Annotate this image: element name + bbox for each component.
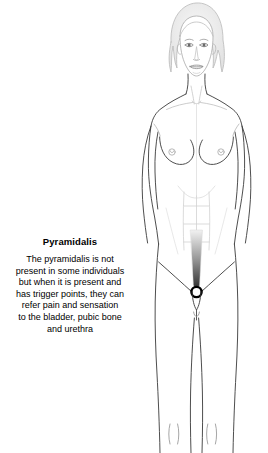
figure-svg xyxy=(130,0,268,453)
caption-title: Pyramidalis xyxy=(0,236,140,247)
oblique-left xyxy=(166,208,178,254)
thigh-inner-right xyxy=(199,318,203,453)
illustration-page: Pyramidalis The pyramidalis is not prese… xyxy=(0,0,268,453)
breast-right xyxy=(199,137,233,164)
clavicle-left xyxy=(167,103,193,110)
caption-line: The pyramidalis is not xyxy=(6,254,134,266)
inguinal-crease-left xyxy=(159,262,192,292)
arm-inner-left xyxy=(155,132,158,209)
rectus-abdominis-left-border xyxy=(183,192,184,250)
caption-line: and urethra xyxy=(6,324,134,336)
oblique-right xyxy=(215,208,227,254)
caption-body: The pyramidalis is not present in some i… xyxy=(0,254,140,335)
thigh-outer-left xyxy=(155,244,160,453)
inguinal-crease-right xyxy=(201,262,234,292)
caption-line: has trigger points, they can xyxy=(6,289,134,301)
caption-panel: Pyramidalis The pyramidalis is not prese… xyxy=(0,236,140,335)
neck xyxy=(186,74,207,94)
clavicle-right xyxy=(201,103,227,110)
caption-line: to the bladder, pubic bone xyxy=(6,312,134,324)
torso-outline-left xyxy=(148,94,186,244)
caption-line: present in some individuals xyxy=(6,266,134,278)
torso-outline-right xyxy=(207,94,245,244)
knee-right xyxy=(215,424,216,444)
nipple-left xyxy=(169,149,175,155)
caption-line: refer pain and sensation xyxy=(6,300,134,312)
armpit-right xyxy=(233,124,239,136)
nipple-right xyxy=(218,149,224,155)
knee-right-outer xyxy=(207,424,208,444)
breast-left xyxy=(160,137,194,164)
pupil-right xyxy=(203,44,206,47)
arm-inner-right xyxy=(235,132,238,209)
pupil-left xyxy=(188,44,191,47)
knee-left-outer xyxy=(178,424,179,444)
caption-line: but when it is present and xyxy=(6,277,134,289)
anatomy-figure xyxy=(130,0,268,453)
knee-left xyxy=(169,424,170,444)
thigh-inner-left xyxy=(190,318,194,453)
armpit-left xyxy=(154,124,160,136)
trigger-point[interactable] xyxy=(191,287,201,297)
rectus-abdominis-right-border xyxy=(209,192,210,250)
thigh-outer-right xyxy=(233,244,238,453)
